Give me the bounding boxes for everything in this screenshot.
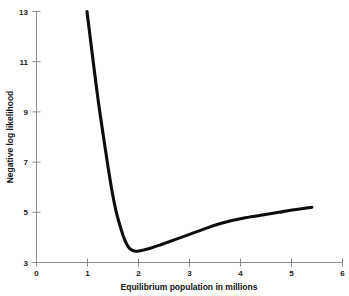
- y-axis-title: Negative log likelihood: [5, 91, 15, 184]
- x-axis-title: Equilibrium population in millions: [121, 282, 258, 292]
- y-tick-label: 11: [20, 58, 29, 67]
- chart-figure: 35791113 0123456 Equilibrium population …: [0, 0, 349, 296]
- data-curve-negative-log-likelihood: [87, 12, 312, 252]
- y-tick-label: 9: [24, 108, 29, 117]
- x-tick-label: 6: [340, 269, 345, 278]
- x-tick-label: 5: [289, 269, 294, 278]
- y-axis-group: 35791113: [19, 8, 40, 268]
- line-chart-svg: 35791113 0123456 Equilibrium population …: [0, 0, 349, 296]
- x-tick-labels: 0123456: [34, 269, 345, 278]
- y-tick-labels: 35791113: [19, 8, 28, 268]
- x-tick-label: 0: [34, 269, 39, 278]
- y-tick-label: 5: [24, 208, 29, 217]
- x-tick-label: 1: [85, 269, 90, 278]
- x-tick-label: 3: [187, 269, 192, 278]
- x-tick-label: 4: [238, 269, 243, 278]
- x-tick-label: 2: [136, 269, 141, 278]
- y-tick-label: 3: [24, 259, 29, 268]
- y-tick-label: 7: [24, 158, 29, 167]
- x-axis-group: 0123456: [34, 259, 345, 279]
- y-tick-label: 13: [19, 8, 28, 17]
